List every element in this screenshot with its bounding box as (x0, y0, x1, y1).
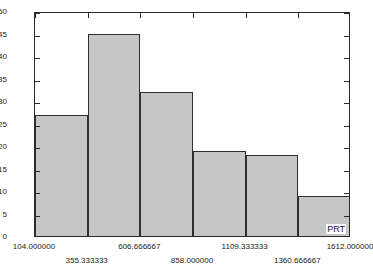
y-tick-mark (35, 36, 40, 37)
y-tick-mark (35, 103, 40, 104)
y-tick-mark (344, 126, 349, 127)
x-tick-mark (193, 231, 194, 236)
x-tick-mark (35, 231, 36, 236)
y-tick-mark (344, 148, 349, 149)
y-tick-label: 35 (0, 76, 7, 84)
y-tick-mark (344, 193, 349, 194)
x-tick-label: 606.666667 (118, 242, 160, 251)
histogram-bar (35, 115, 88, 237)
y-tick-mark (35, 81, 40, 82)
x-tick-mark (35, 13, 36, 18)
x-tick-mark (140, 231, 141, 236)
histogram-bar (193, 151, 246, 237)
y-tick-label: 5 (0, 211, 7, 219)
y-tick-mark (344, 58, 349, 59)
y-tick-label: 50 (0, 8, 7, 16)
plot-area: PRT (34, 12, 350, 237)
y-tick-label: 15 (0, 166, 7, 174)
y-tick-label: 0 (0, 233, 7, 241)
x-tick-mark (298, 231, 299, 236)
y-tick-label: 45 (0, 31, 7, 39)
x-tick-mark (298, 13, 299, 18)
y-tick-label: 20 (0, 143, 7, 151)
histogram-bar (246, 155, 299, 236)
y-tick-label: 40 (0, 53, 7, 61)
x-tick-mark (88, 231, 89, 236)
x-tick-label: 355.333333 (66, 256, 108, 265)
x-tick-label: 104.000000 (13, 242, 55, 251)
y-tick-mark (35, 58, 40, 59)
x-tick-label: 1109.333333 (222, 242, 268, 251)
y-tick-label: 10 (0, 188, 7, 196)
y-tick-mark (344, 36, 349, 37)
histogram-bar (140, 92, 193, 236)
x-tick-label: 1612.000000 (327, 242, 373, 251)
y-tick-mark (344, 13, 349, 14)
y-tick-mark (344, 171, 349, 172)
y-tick-mark (344, 81, 349, 82)
x-tick-mark (246, 13, 247, 18)
y-tick-mark (344, 103, 349, 104)
x-tick-mark (140, 13, 141, 18)
y-tick-mark (35, 148, 40, 149)
x-axis-label: PRT (326, 224, 346, 234)
x-tick-label: 1360.666667 (274, 256, 321, 265)
x-tick-mark (193, 13, 194, 18)
histogram-bar (88, 34, 141, 237)
y-tick-mark (344, 216, 349, 217)
y-tick-mark (35, 193, 40, 194)
x-tick-mark (246, 231, 247, 236)
y-tick-mark (35, 126, 40, 127)
y-tick-label: 25 (0, 121, 7, 129)
y-tick-mark (35, 171, 40, 172)
y-tick-label: 30 (0, 98, 7, 106)
x-tick-mark (88, 13, 89, 18)
y-tick-mark (35, 216, 40, 217)
x-tick-label: 858.000000 (171, 256, 213, 265)
